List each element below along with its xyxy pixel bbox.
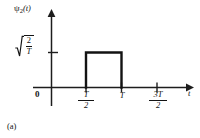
x-tick-label-t: T (117, 90, 127, 100)
origin-label: 0 (35, 90, 40, 99)
y-axis-label: ψ2(t) (14, 4, 31, 14)
x-tick-label-t-over-2-numerator: T (78, 90, 94, 100)
radical-group: 2 T (15, 33, 34, 56)
figure-panel: ψ2(t) 2 T 0 T 2 T 3T 2 t (a) (0, 0, 200, 138)
x-tick-label-3t-over-2-numerator: 3T (149, 90, 167, 100)
amplitude-denominator: T (26, 46, 33, 57)
panel-label: (a) (7, 122, 16, 131)
x-axis (33, 84, 194, 92)
x-tick-label-3t-over-2: 3T 2 (149, 90, 167, 111)
x-tick-label-3t-over-2-denominator: 2 (149, 100, 167, 111)
y-axis-label-argument: (t) (23, 3, 31, 13)
amplitude-fraction: 2 T (24, 35, 34, 56)
amplitude-numerator: 2 (26, 36, 33, 46)
y-axis (48, 9, 56, 106)
amplitude-label: 2 T (15, 33, 34, 56)
square-root-icon (15, 35, 24, 57)
x-axis-label: t (188, 89, 190, 98)
x-tick-label-t-over-2: T 2 (78, 90, 94, 111)
x-tick-label-t-over-2-denominator: 2 (78, 100, 94, 111)
pulse-waveform (86, 53, 122, 88)
waveform-plot (0, 0, 200, 138)
